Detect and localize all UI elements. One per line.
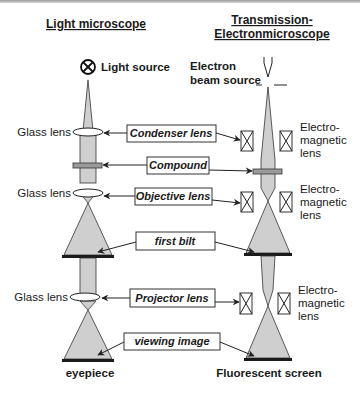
first-image-callout: first bilt bbox=[98, 232, 254, 252]
viewing-image-callout: viewing image bbox=[98, 333, 254, 356]
em-lens-coil-objective-left bbox=[241, 192, 253, 212]
em-lens-coil-projector-left bbox=[240, 293, 252, 314]
glass-lens-label-1: Glass lens bbox=[17, 126, 71, 138]
svg-text:magnetic: magnetic bbox=[300, 134, 347, 146]
fluorescent-screen-plane bbox=[244, 358, 292, 361]
eyepiece-plane bbox=[62, 359, 114, 362]
svg-text:Objective lens: Objective lens bbox=[136, 190, 211, 202]
light-beam-column-lower bbox=[80, 258, 96, 295]
svg-text:Electro-: Electro- bbox=[298, 284, 338, 296]
svg-text:lens: lens bbox=[300, 147, 321, 159]
light-source-icon bbox=[81, 60, 95, 74]
svg-text:viewing image: viewing image bbox=[134, 335, 209, 347]
fluorescent-screen-label: Fluorescent screen bbox=[216, 367, 321, 379]
electron-beam-upper bbox=[261, 87, 275, 201]
svg-text:first bilt: first bilt bbox=[155, 235, 197, 247]
light-beam-converge-lower bbox=[80, 301, 96, 310]
eyepiece-label: eyepiece bbox=[66, 367, 115, 379]
tem-first-image-plane bbox=[244, 253, 292, 256]
light-beam-cone bbox=[83, 80, 93, 131]
svg-text:magnetic: magnetic bbox=[298, 297, 345, 309]
svg-text:lens: lens bbox=[300, 209, 321, 221]
glass-lens-objective bbox=[73, 189, 103, 197]
glass-lens-label-3: Glass lens bbox=[14, 291, 68, 303]
svg-text:Compound: Compound bbox=[149, 159, 207, 171]
first-image-plane bbox=[62, 255, 114, 258]
em-lens-label-3: Electro- magnetic lens bbox=[298, 284, 345, 322]
svg-text:magnetic: magnetic bbox=[300, 196, 347, 208]
em-lens-coil-condenser-right bbox=[280, 131, 292, 151]
tem-heading-line2: Electronmicroscope bbox=[214, 27, 330, 41]
compound-slide-right bbox=[253, 169, 282, 174]
condenser-lens-callout: Condenser lens bbox=[104, 125, 240, 142]
electron-source-label-1: Electron bbox=[190, 60, 236, 72]
svg-text:Projector lens: Projector lens bbox=[135, 292, 208, 304]
em-lens-label-1: Electro- magnetic lens bbox=[300, 121, 347, 159]
glass-lens-label-2: Glass lens bbox=[17, 187, 71, 199]
light-microscope-heading: Light microscope bbox=[46, 17, 146, 31]
svg-text:Condenser lens: Condenser lens bbox=[130, 127, 213, 139]
microscope-comparison-diagram: Light microscope Transmission- Electronm… bbox=[0, 0, 360, 394]
tem-heading-line1: Transmission- bbox=[231, 13, 312, 27]
svg-text:Electro-: Electro- bbox=[300, 183, 340, 195]
electron-source-label-2: beam source bbox=[190, 74, 261, 86]
light-beam-column bbox=[80, 131, 96, 183]
glass-lens-condenser bbox=[73, 128, 103, 136]
compound-callout: Compound bbox=[103, 157, 252, 174]
light-source-label: Light source bbox=[101, 61, 170, 73]
em-lens-coil-condenser-left bbox=[241, 131, 253, 151]
svg-text:lens: lens bbox=[298, 310, 319, 322]
em-lens-coil-projector-right bbox=[278, 293, 290, 314]
light-first-image-cone bbox=[64, 203, 112, 255]
electron-beam-lower bbox=[261, 256, 275, 306]
em-lens-coil-objective-right bbox=[280, 192, 292, 212]
compound-slide-left bbox=[73, 163, 102, 168]
projector-lens-callout: Projector lens bbox=[102, 289, 239, 307]
em-lens-label-2: Electro- magnetic lens bbox=[300, 183, 347, 221]
glass-lens-projector bbox=[70, 293, 100, 301]
objective-lens-callout: Objective lens bbox=[104, 188, 240, 205]
svg-text:Electro-: Electro- bbox=[300, 121, 340, 133]
